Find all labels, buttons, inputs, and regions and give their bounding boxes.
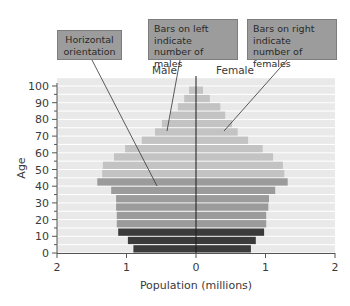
female-bar <box>196 220 266 227</box>
female-bar <box>196 195 269 202</box>
population-pyramid-chart: 210120102030405060708090100Population (m… <box>0 0 350 306</box>
y-axis-title: Age <box>15 157 28 179</box>
x-tick-label: 2 <box>332 261 339 274</box>
female-bar <box>196 212 266 219</box>
male-bar <box>133 245 196 252</box>
female-bar <box>196 103 220 110</box>
y-tick-label: 60 <box>35 147 49 160</box>
y-tick-label: 100 <box>28 80 49 93</box>
male-bar <box>116 195 196 202</box>
female-bar <box>196 137 248 144</box>
male-bar <box>189 87 196 94</box>
male-bar <box>178 103 196 110</box>
male-bar <box>117 220 196 227</box>
male-bar <box>116 203 196 210</box>
male-bar <box>103 162 196 169</box>
male-bar <box>184 95 196 102</box>
female-bar <box>196 128 238 135</box>
female-bar <box>196 162 283 169</box>
female-bar <box>196 245 251 252</box>
female-bar <box>196 170 284 177</box>
y-tick-label: 70 <box>35 130 49 143</box>
male-bar <box>125 145 196 152</box>
female-bar <box>196 145 263 152</box>
y-tick-label: 80 <box>35 113 49 126</box>
x-tick-label: 0 <box>193 261 200 274</box>
x-tick-label: 1 <box>123 261 130 274</box>
female-bar <box>196 229 264 236</box>
female-bar <box>196 237 256 244</box>
y-tick-label: 10 <box>35 230 49 243</box>
female-bar <box>196 95 210 102</box>
x-tick-label: 1 <box>262 261 269 274</box>
female-bar <box>196 112 225 119</box>
y-tick-label: 90 <box>35 97 49 110</box>
male-bar <box>170 112 196 119</box>
y-tick-label: 40 <box>35 180 49 193</box>
female-bar <box>196 178 288 185</box>
male-bar <box>118 229 196 236</box>
female-bar <box>196 120 232 127</box>
male-bar <box>117 212 196 219</box>
male-bar <box>114 153 196 160</box>
male-bar <box>111 187 196 194</box>
y-tick-label: 0 <box>42 247 49 260</box>
male-bar <box>162 120 196 127</box>
female-bar <box>196 187 275 194</box>
y-tick-label: 30 <box>35 197 49 210</box>
x-axis-title: Population (millions) <box>140 279 252 292</box>
female-bar <box>196 153 273 160</box>
male-bar <box>97 178 196 185</box>
y-tick-label: 20 <box>35 214 49 227</box>
male-bar <box>128 237 196 244</box>
x-tick-label: 2 <box>54 261 61 274</box>
male-bar <box>155 128 196 135</box>
female-bar <box>196 203 268 210</box>
female-bar <box>196 87 203 94</box>
y-tick-label: 50 <box>35 164 49 177</box>
male-bar <box>142 137 196 144</box>
